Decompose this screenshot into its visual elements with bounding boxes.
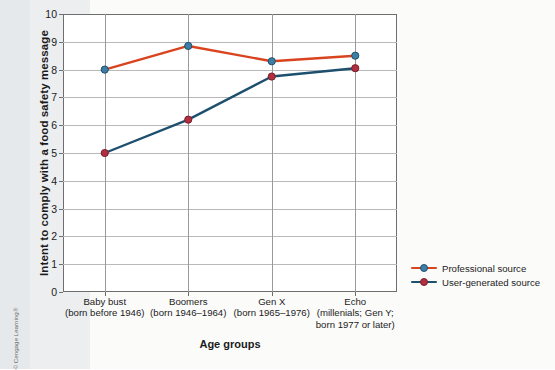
legend-item-professional-source[interactable]: Professional source: [411, 261, 540, 275]
legend-label: Professional source: [442, 263, 526, 274]
x-category-label-group: Echo(millenials; Gen Y;born 1977 or late…: [295, 296, 415, 330]
series-line-user-generated: [105, 68, 356, 153]
series-line-professional: [105, 46, 356, 70]
x-category-name: Echo: [295, 296, 415, 307]
y-tick-label: 9: [51, 36, 57, 48]
x-axis-title: Age groups: [63, 338, 397, 350]
data-point-marker: [352, 65, 359, 72]
data-point-marker: [352, 52, 359, 59]
y-tick-label: 4: [51, 175, 57, 187]
y-tick-label: 7: [51, 91, 57, 103]
copyright-notice: © Cengage Learning®: [12, 290, 19, 370]
data-point-marker: [185, 42, 192, 49]
legend-dot: [420, 264, 428, 272]
legend-item-user-generated-source[interactable]: User-generated source: [411, 275, 540, 289]
y-tick-mark: [59, 292, 63, 293]
data-point-marker: [268, 73, 275, 80]
legend-marker-icon: [411, 262, 437, 274]
data-point-marker: [101, 66, 108, 73]
y-tick-label: 6: [51, 119, 57, 131]
data-point-marker: [185, 116, 192, 123]
x-category-sublabel: (millenials; Gen Y;: [295, 307, 415, 318]
data-point-marker: [268, 58, 275, 65]
data-point-marker: [101, 149, 108, 156]
y-tick-label: 3: [51, 203, 57, 215]
x-category-sublabel: born 1977 or later): [295, 319, 415, 330]
legend-marker-icon: [411, 276, 437, 288]
plot-area-wrapper: 012345678910: [63, 14, 397, 292]
y-tick-label: 1: [51, 258, 57, 270]
y-axis-title: Intent to comply with a food safety mess…: [38, 3, 50, 303]
legend-dot: [420, 278, 428, 286]
y-tick-label: 8: [51, 64, 57, 76]
series-lines: [63, 14, 397, 292]
y-tick-label: 2: [51, 230, 57, 242]
y-tick-label: 10: [45, 8, 57, 20]
legend-label: User-generated source: [442, 277, 540, 288]
y-tick-label: 5: [51, 147, 57, 159]
chart-legend: Professional sourceUser-generated source: [411, 261, 540, 289]
